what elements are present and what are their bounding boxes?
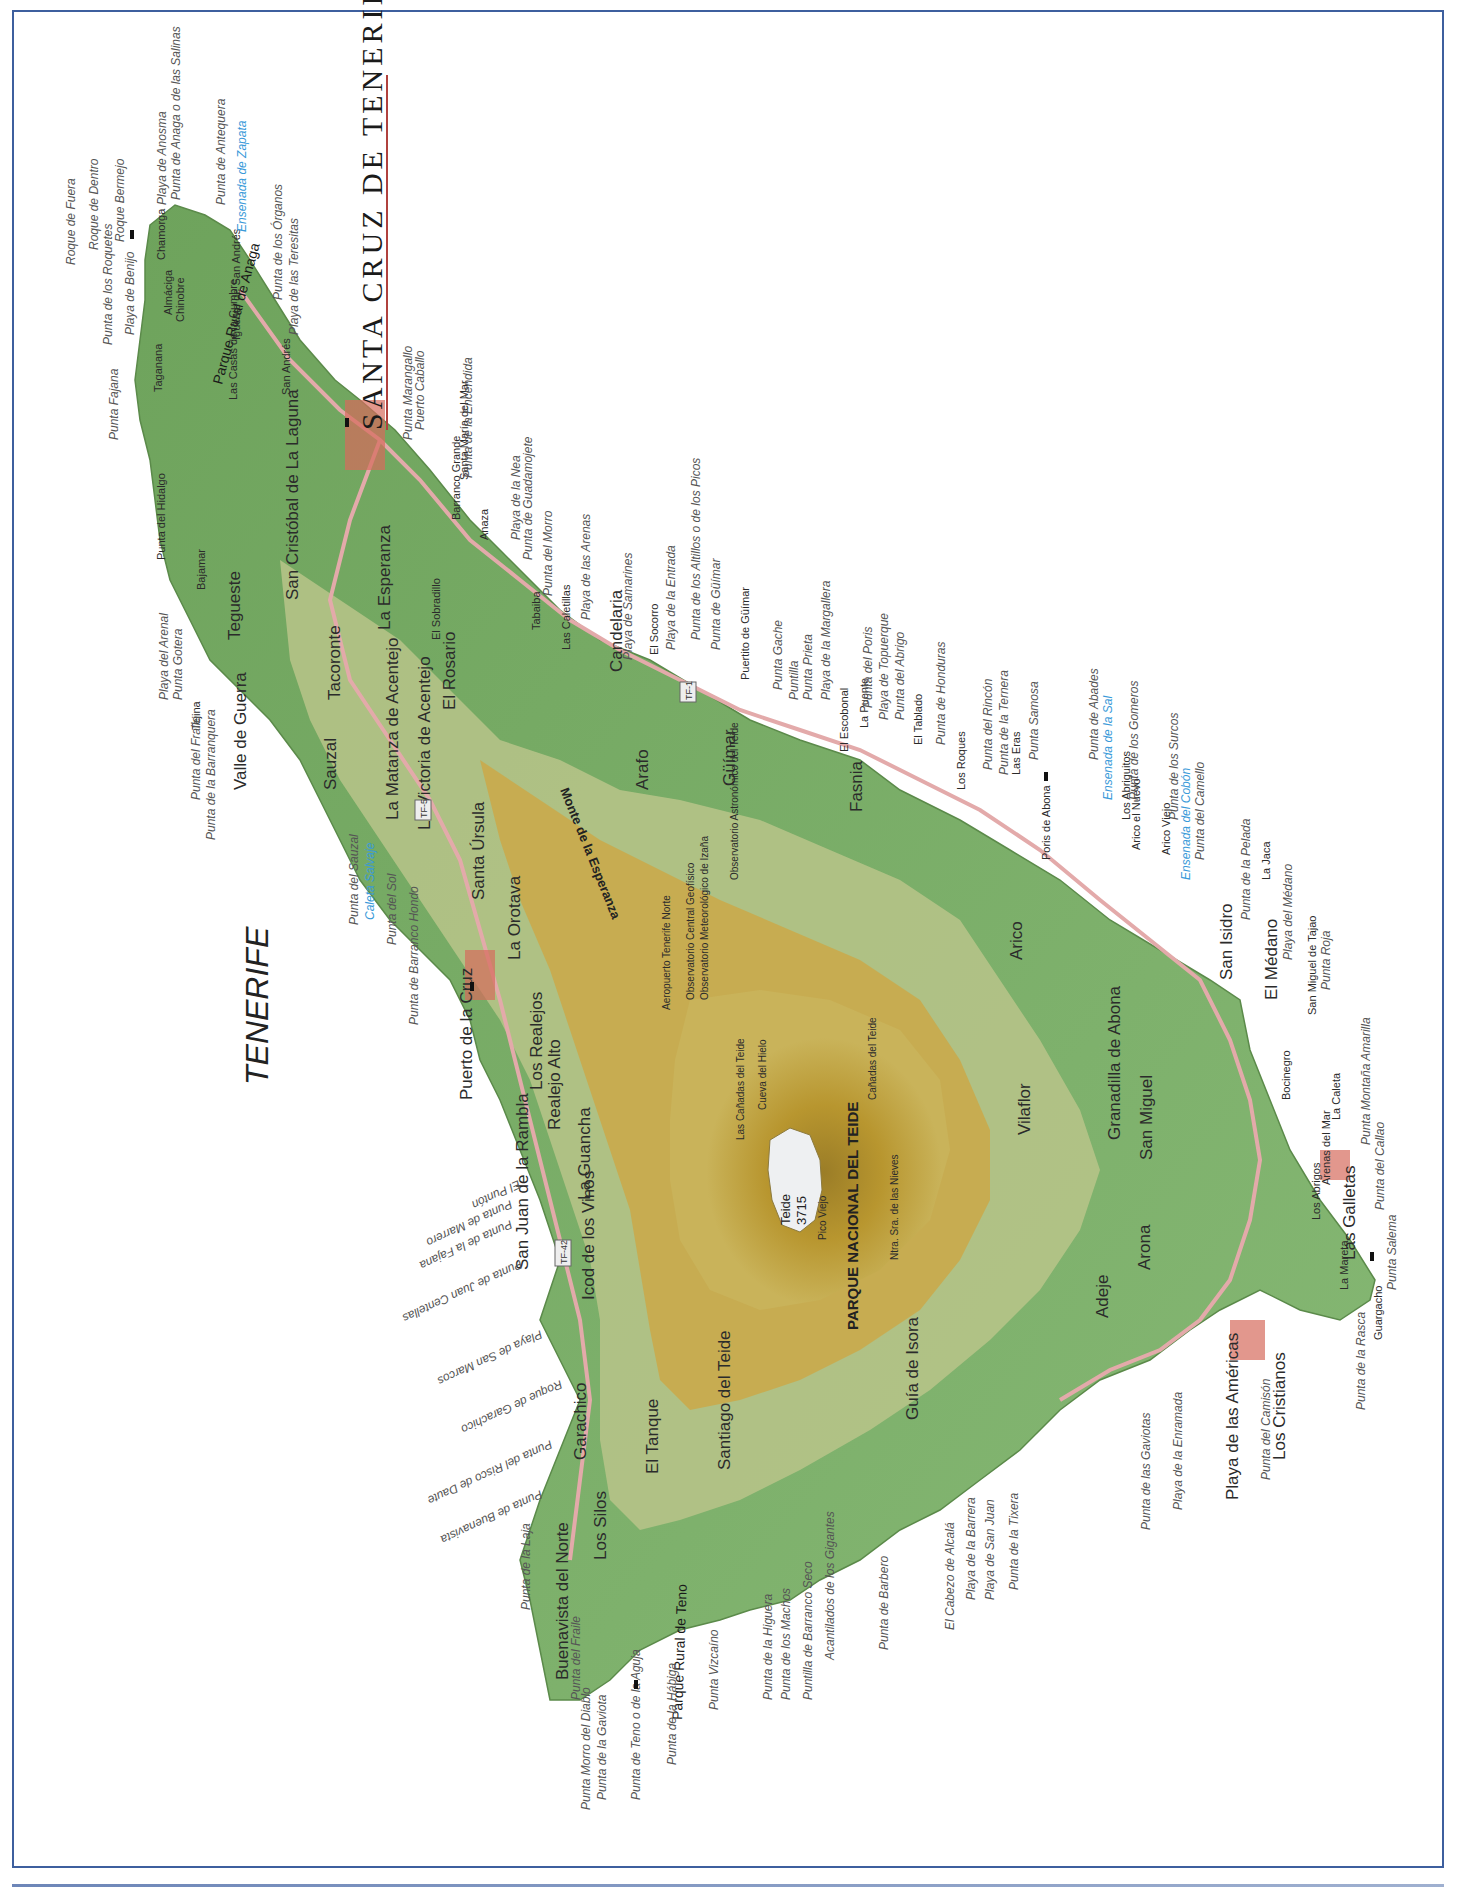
coast-label: Punta del Fraile bbox=[569, 1616, 583, 1700]
coast-label: Punta de Juan Centellas bbox=[400, 1257, 524, 1325]
town-label: La Esperanza bbox=[375, 525, 394, 630]
town-label: Anaza bbox=[478, 508, 490, 540]
coast-label: Punta de los Machos bbox=[779, 1588, 793, 1700]
coast-label: Punta Vizcaíno bbox=[707, 1629, 721, 1710]
coast-label: Punta del Camello bbox=[1193, 762, 1207, 860]
coast-label: Acantilados de los Gigantes bbox=[823, 1511, 837, 1661]
coast-label: Playa de Benijo bbox=[123, 251, 137, 335]
coast-label: Playa del Arenal bbox=[157, 613, 171, 700]
coast-label: Playa de Anosma bbox=[155, 111, 169, 205]
town-label: El Rosario bbox=[440, 632, 459, 710]
coast-label: Punta de la Rasca bbox=[1354, 1312, 1368, 1410]
town-label: Taganana bbox=[152, 343, 164, 392]
coast-label: Playa de las Arenas bbox=[579, 514, 593, 620]
town-label: Tacoronte bbox=[325, 625, 344, 700]
town-label: Bocinegro bbox=[1280, 1050, 1292, 1100]
town-label: Vilaflor bbox=[1015, 1083, 1034, 1135]
road-shield: TF-5 bbox=[419, 799, 429, 818]
interior-label: Pico Viejo bbox=[817, 1195, 828, 1240]
summit-elevation: 3715 bbox=[794, 1196, 809, 1225]
coast-label: Playa de Topuerque bbox=[877, 613, 891, 720]
bay-label: Ensenada de la Sal bbox=[1101, 696, 1115, 800]
coast-label: Playa de las Teresitas bbox=[287, 218, 301, 335]
coast-label: Punta de la Pelada bbox=[1239, 818, 1253, 920]
coast-label: Punta Prieta bbox=[801, 634, 815, 700]
town-label: Valle de Guerra bbox=[231, 672, 250, 790]
coast-label: Punta del Poris bbox=[861, 627, 875, 708]
coast-label: Punta del Callao bbox=[1373, 1122, 1387, 1210]
interior-label: Ntra. Sra. de las Nieves bbox=[889, 1154, 900, 1260]
coast-label: Puntilla de Barranco Seco bbox=[801, 1561, 815, 1700]
coast-label: Punta de la Ternera bbox=[997, 670, 1011, 775]
coast-label: Punta del Sol bbox=[385, 873, 399, 945]
coast-label: Punta de la Encendida bbox=[461, 357, 475, 478]
lighthouse-icon bbox=[1370, 1252, 1374, 1261]
bay-label: Caleta Salvaje bbox=[363, 842, 377, 920]
lighthouse-icon bbox=[470, 982, 474, 991]
town-label: Las Eras bbox=[1010, 731, 1022, 775]
coast-label: Punta Montaña Amarilla bbox=[1359, 1017, 1373, 1145]
town-label: Los Abrigos bbox=[1310, 1162, 1322, 1220]
coast-label: Punta del Sauzal bbox=[347, 834, 361, 925]
coast-label: Puerto Caballo bbox=[413, 350, 427, 430]
coast-label: Punta Roja bbox=[1319, 930, 1333, 990]
bay-label: Ensenada del Cobón bbox=[1179, 768, 1193, 880]
lighthouse-icon bbox=[130, 230, 134, 239]
interior-label: Cueva del Hielo bbox=[757, 1039, 768, 1110]
coast-label: Playa del Médano bbox=[1281, 864, 1295, 960]
coast-label: Punta Gache bbox=[771, 620, 785, 690]
coast-label: Punta del Camisón bbox=[1259, 1378, 1273, 1480]
island-title: TENERIFE bbox=[239, 926, 275, 1085]
town-label: Chamorga bbox=[155, 208, 167, 260]
capital-title: SANTA CRUZ DE TENERIFE bbox=[355, 0, 388, 430]
town-label: San Miguel de Tajao bbox=[1306, 916, 1318, 1015]
town-label: Almáciga bbox=[162, 269, 174, 315]
coast-label: Punta de la Tixera bbox=[1007, 1492, 1021, 1590]
coast-label: Punta de Honduras bbox=[934, 642, 948, 745]
coast-label: Punta Salema bbox=[1385, 1214, 1399, 1290]
town-label: El Sobradillo bbox=[430, 578, 442, 640]
road-shield: TF-1 bbox=[684, 681, 694, 700]
coast-label: Playa de la Barrera bbox=[964, 1497, 978, 1600]
coast-label: Punta de Güímar bbox=[709, 558, 723, 650]
coast-label: Punta de Antequera bbox=[214, 98, 228, 205]
summit-name: Teide bbox=[778, 1194, 793, 1225]
coast-label: Playa de Samarines bbox=[621, 553, 635, 660]
coast-label: Punta del Rincón bbox=[981, 678, 995, 770]
coast-label: Punta Gotera bbox=[171, 628, 185, 700]
observatory-label: Observatorio Meteorológico de Izaña bbox=[699, 836, 710, 1000]
coast-label: Punta de Anaga o de las Salinas bbox=[169, 26, 183, 200]
town-label: El Médano bbox=[1262, 919, 1281, 1000]
town-label: El Escobonal bbox=[838, 688, 850, 752]
coast-label: Punta de los Altillos o de los Picos bbox=[689, 458, 703, 640]
town-label: San Miguel bbox=[1137, 1075, 1156, 1160]
bay-label: Ensenada de Zapata bbox=[235, 120, 249, 232]
coast-label: Roque Bermejo bbox=[113, 158, 127, 242]
town-label: La Jaca bbox=[1260, 841, 1272, 880]
coast-label: Playa de San Juan bbox=[983, 1499, 997, 1600]
town-label: San Cristóbal de La Laguna bbox=[283, 389, 302, 600]
town-label: Fasnia bbox=[847, 760, 866, 812]
town-label: Bajamar bbox=[195, 549, 207, 590]
town-label: Guargacho bbox=[1372, 1286, 1384, 1340]
town-label: El Tablado bbox=[912, 694, 924, 745]
town-label: La Guancha bbox=[575, 1107, 594, 1200]
town-label: La Mareta bbox=[1338, 1240, 1350, 1290]
town-label: Adeje bbox=[1093, 1275, 1112, 1318]
town-label: El Socorro bbox=[648, 604, 660, 655]
town-label: La Orotava bbox=[505, 875, 524, 960]
town-label: Santiago del Teide bbox=[715, 1330, 734, 1470]
town-label: Garachico bbox=[571, 1383, 590, 1460]
coast-label: Punta de la Hábiga bbox=[665, 1663, 679, 1765]
town-label: Arafo bbox=[633, 749, 652, 790]
town-label: Sauzal bbox=[321, 738, 340, 790]
town-label: Los Silos bbox=[591, 1491, 610, 1560]
town-label: Puertito de Güímar bbox=[739, 587, 751, 680]
coast-label: Punta Fajana bbox=[107, 368, 121, 440]
coast-label: Punta de la Gaviota bbox=[595, 1694, 609, 1800]
lighthouse-icon bbox=[634, 1680, 638, 1689]
town-label: La Matanza de Acentejo bbox=[383, 638, 402, 820]
coast-label: Punta de las Gaviotas bbox=[1139, 1413, 1153, 1530]
coast-label: Playa de San Marcos bbox=[435, 1327, 544, 1388]
town-label: Playa de las Américas bbox=[1223, 1333, 1242, 1500]
